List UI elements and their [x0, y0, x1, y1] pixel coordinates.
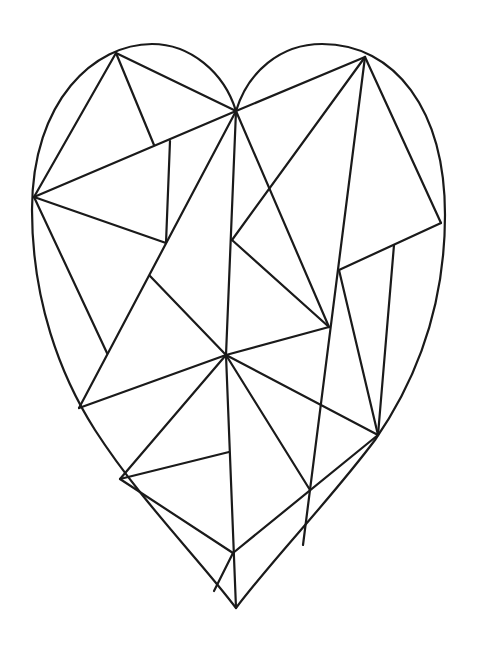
facet-line: [232, 240, 329, 327]
facet-line: [226, 327, 329, 355]
facet-line: [339, 223, 441, 270]
facet-line: [150, 276, 226, 355]
facet-line: [34, 197, 166, 243]
facet-line: [116, 53, 236, 111]
heart-illustration-canvas: geometric faceted heart line drawing: [0, 0, 477, 651]
facet-line: [378, 245, 394, 435]
faceted-heart-svg: [0, 0, 477, 651]
facet-line: [120, 452, 229, 479]
facet-line: [226, 111, 236, 355]
facet-line: [226, 355, 236, 608]
facet-lines: [34, 53, 441, 608]
facet-line: [34, 111, 236, 197]
facet-line: [226, 355, 378, 435]
facet-line: [34, 197, 107, 353]
facet-line: [233, 435, 378, 553]
facet-line: [236, 111, 329, 327]
facet-line: [166, 141, 170, 243]
facet-line: [339, 270, 378, 435]
facet-line: [226, 355, 310, 490]
facet-line: [116, 53, 154, 145]
facet-line: [214, 553, 233, 591]
facet-line: [79, 111, 236, 408]
facet-line: [120, 479, 233, 553]
